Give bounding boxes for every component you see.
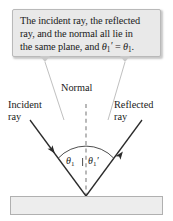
reflection-figure: The incident ray, the reflected ray, and…: [0, 0, 173, 221]
reflecting-surface: [10, 196, 163, 215]
reflected-ray-label-line-2: ray: [114, 111, 127, 122]
angle-of-incidence-subscript: 1: [71, 160, 75, 168]
angle-of-reflection-subscript: 1: [93, 160, 97, 168]
incident-ray-label: Incident ray: [8, 99, 42, 123]
angle-of-incidence-label: θ1: [66, 155, 74, 166]
reflected-ray-label-line-1: Reflected: [114, 99, 153, 110]
normal-label: Normal: [61, 82, 92, 94]
angle-of-reflection-prime-mark: ′: [96, 155, 98, 166]
incident-ray-label-line-2: ray: [8, 111, 21, 122]
angle-of-reflection-label: θ1′: [88, 155, 99, 166]
incident-ray-label-line-1: Incident: [8, 99, 42, 110]
reflected-ray-label: Reflected ray: [114, 99, 153, 123]
